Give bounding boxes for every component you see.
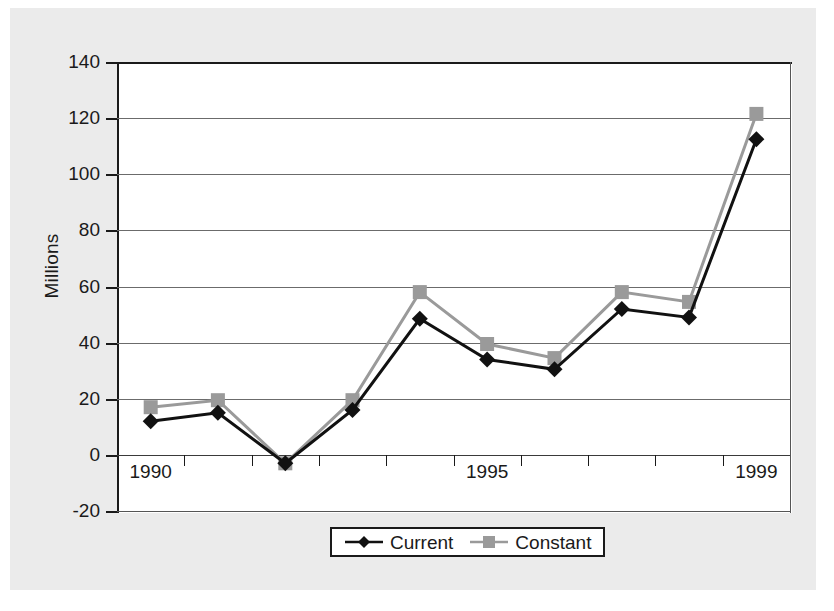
x-tick-mark — [319, 455, 320, 466]
y-tick-mark — [106, 287, 117, 289]
chart-legend: Current Constant — [330, 527, 605, 557]
x-tick-label: 1990 — [91, 462, 211, 481]
y-tick-label: 100 — [0, 164, 100, 183]
y-tick-label: 140 — [0, 52, 100, 71]
x-tick-label: 1999 — [696, 462, 816, 481]
y-tick-label: 20 — [0, 389, 100, 408]
y-tick-mark — [106, 399, 117, 401]
plot-area — [117, 62, 792, 513]
legend-label-constant: Constant — [515, 533, 591, 552]
y-tick-mark — [106, 174, 117, 176]
x-tick-mark — [588, 455, 589, 466]
gridline — [117, 118, 790, 119]
y-axis-title: Millions — [41, 186, 63, 346]
y-tick-mark — [106, 343, 117, 345]
x-tick-label: 1995 — [427, 462, 547, 481]
y-tick-label: -20 — [0, 501, 100, 520]
legend-label-current: Current — [390, 533, 453, 552]
gridline — [117, 287, 790, 288]
plot-frame-bottom — [117, 511, 791, 512]
gridline — [117, 343, 790, 344]
legend-entry-constant[interactable]: Constant — [469, 533, 591, 552]
y-tick-mark — [106, 62, 117, 64]
gridline — [117, 230, 790, 231]
y-tick-mark — [106, 118, 117, 120]
gridline — [117, 174, 790, 175]
y-tick-mark — [106, 455, 117, 457]
diamond-marker-icon — [344, 534, 384, 550]
plot-frame-right — [790, 62, 791, 513]
x-tick-mark — [655, 455, 656, 466]
y-tick-label: 120 — [0, 108, 100, 127]
x-tick-mark — [386, 455, 387, 466]
x-tick-mark — [252, 455, 253, 466]
y-tick-mark — [106, 511, 117, 513]
legend-entry-current[interactable]: Current — [344, 533, 453, 552]
square-marker-icon — [469, 534, 509, 550]
chart-figure: 140120100806040200-20 199019951999 Milli… — [0, 0, 834, 611]
gridline — [117, 399, 790, 400]
y-tick-mark — [106, 230, 117, 232]
y-tick-label: 0 — [0, 445, 100, 464]
